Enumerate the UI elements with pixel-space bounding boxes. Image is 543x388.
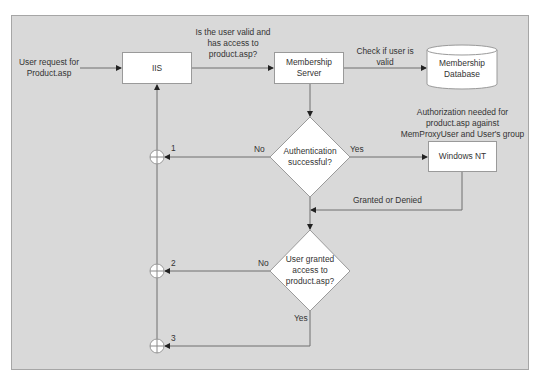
db-label-line2: Database [427,69,497,80]
access-yes-label: Yes [294,313,308,324]
check-user-valid-label: Check if user is valid [350,46,420,68]
edge-label-line: has access to [192,38,274,49]
authorization-needed-label: Authorization needed for product.asp aga… [395,107,530,140]
user-request-line1: User request for [18,57,80,68]
edge-label-line: Is the user valid and [192,27,274,38]
edge-label-line: valid [350,57,420,68]
edge-label-line: MemProxyUser and User's group [395,129,530,140]
edge-label-line: product.asp? [192,49,274,60]
flowchart-diagram: User request for Product.asp IIS Is the … [0,0,543,388]
iis-node: IIS [122,52,192,84]
junction-circle-icon [150,150,164,164]
junction-1-label: 1 [171,143,176,154]
iis-label: IIS [152,63,162,74]
membership-server-label-line2: Server [297,68,322,79]
windows-nt-label: Windows NT [439,151,486,162]
granted-or-denied-label: Granted or Denied [353,195,422,206]
junction-circle-icon [150,339,164,353]
membership-server-node: Membership Server [274,52,344,84]
decision-line: access to [270,265,350,276]
junction-circle-icon [150,264,164,278]
junction-3-label: 3 [171,333,176,344]
iis-to-membership-label: Is the user valid and has access to prod… [192,27,274,60]
user-request-line2: Product.asp [18,68,80,79]
membership-database-label: Membership Database [427,58,497,80]
edge-label-line: Check if user is [350,46,420,57]
junction-2-label: 2 [171,258,176,269]
decision-line: product.asp? [270,276,350,287]
decision-access-label: User granted access to product.asp? [270,254,350,287]
access-no-label: No [258,258,269,269]
decision-authentication-label: Authentication successful? [270,146,350,168]
membership-server-label-line1: Membership [286,57,332,68]
decision-line: successful? [270,157,350,168]
windows-nt-node: Windows NT [428,141,497,172]
decision-line: Authentication [270,146,350,157]
decision-line: User granted [270,254,350,265]
auth-no-label: No [254,144,265,155]
db-label-line1: Membership [427,58,497,69]
edge-label-line: product.asp against [395,118,530,129]
auth-yes-label: Yes [350,144,364,155]
edge-label-line: Authorization needed for [395,107,530,118]
user-request-label: User request for Product.asp [18,57,80,79]
